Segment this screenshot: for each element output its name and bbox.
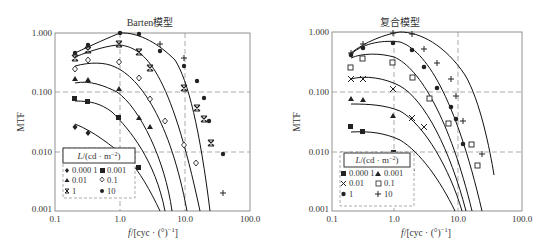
svg-text:10.0: 10.0 xyxy=(450,214,466,224)
x-tick-labels: 0.1 1.0 10.0 100.0 xyxy=(49,214,260,224)
legend-label: 1 xyxy=(349,189,353,199)
svg-text:100.0: 100.0 xyxy=(512,214,533,224)
x-axis-label: f/[cyc · (°)−1] xyxy=(128,226,178,239)
chart-title: Barten模型 xyxy=(127,16,174,28)
legend: L/(cd · m−2) 0.000 1 0.001 0.01 0.1 1 10 xyxy=(63,148,135,198)
svg-text:100.0: 100.0 xyxy=(240,214,261,224)
svg-text:0.010: 0.010 xyxy=(309,147,330,157)
legend-label: 0.001 xyxy=(384,168,403,178)
svg-text:0.100: 0.100 xyxy=(309,87,330,97)
svg-text:0.1: 0.1 xyxy=(326,214,337,224)
legend-label: 0.1 xyxy=(107,175,118,185)
y-axis-label: MTF xyxy=(16,112,26,132)
svg-text:1.0: 1.0 xyxy=(114,214,126,224)
svg-text:0.001: 0.001 xyxy=(32,204,52,214)
x-axis-label: f/[cyc · (°)−1] xyxy=(401,226,451,239)
svg-text:10.0: 10.0 xyxy=(177,214,193,224)
svg-text:0.010: 0.010 xyxy=(32,147,53,157)
legend-square-icon xyxy=(100,168,105,173)
bowtie-markers xyxy=(72,41,214,146)
chart-title: 复合模型 xyxy=(380,16,420,28)
legend-label: 0.001 xyxy=(107,165,126,175)
legend: L/(cd · m−2) 0.000 1 0.001 0.01 0.1 1 10 xyxy=(340,152,414,206)
legend-label: 0.01 xyxy=(349,178,364,188)
y-axis-label: MTF xyxy=(292,112,302,132)
legend-label: 0.1 xyxy=(384,178,395,188)
legend-circle-icon xyxy=(100,189,104,193)
svg-text:0.1: 0.1 xyxy=(49,214,60,224)
svg-text:1.000: 1.000 xyxy=(309,27,330,37)
y-tick-labels: 1.000 0.100 0.010 0.001 xyxy=(32,28,53,214)
svg-text:1.0: 1.0 xyxy=(388,214,400,224)
legend-label: 1 xyxy=(72,186,76,196)
legend-label: 10 xyxy=(107,186,116,196)
svg-text:0.100: 0.100 xyxy=(32,87,53,97)
legend-label: 0.000 1 xyxy=(349,168,375,178)
data-markers xyxy=(348,41,465,171)
svg-text:0.001: 0.001 xyxy=(309,204,329,214)
legend-open-square-icon xyxy=(376,181,381,186)
figure-canvas: Barten模型 1.000 0.100 0.010 0.001 0.1 1.0… xyxy=(0,0,533,247)
legend-circle-icon xyxy=(341,192,345,196)
plus-markers xyxy=(348,30,485,157)
x-tick-labels: 0.1 1.0 10.0 100.0 xyxy=(326,214,532,224)
panel-barten: Barten模型 1.000 0.100 0.010 0.001 0.1 1.0… xyxy=(16,16,261,239)
cross-markers xyxy=(348,76,427,130)
legend-label: 0.01 xyxy=(72,175,87,185)
legend-label: 10 xyxy=(384,189,393,199)
legend-label: 0.000 1 xyxy=(72,165,98,175)
legend-square-icon xyxy=(341,171,346,176)
panel-composite: 复合模型 1.000 0.100 0.010 0.001 0.1 1.0 10.… xyxy=(292,16,533,239)
y-tick-labels: 1.000 0.100 0.010 0.001 xyxy=(309,27,330,214)
svg-text:1.000: 1.000 xyxy=(32,28,53,38)
